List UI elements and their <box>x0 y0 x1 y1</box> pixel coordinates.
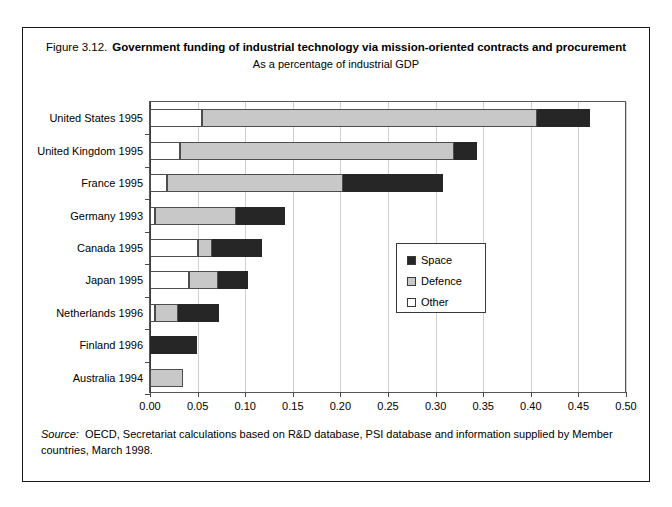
bar-segment-space[interactable] <box>178 304 219 322</box>
legend-label-space: Space <box>421 254 452 266</box>
bar-row[interactable] <box>150 174 627 192</box>
x-axis-tick <box>245 392 246 397</box>
bar-segment-other[interactable] <box>150 142 180 160</box>
x-axis-tick <box>436 392 437 397</box>
y-axis-category-label: Canada 1995 <box>77 242 143 254</box>
bar-segment-defence[interactable] <box>202 109 537 127</box>
source-body: OECD, Secretariat calculations based on … <box>41 428 613 456</box>
x-axis-tick <box>150 392 151 397</box>
x-axis-tick <box>483 392 484 397</box>
source-label: Source: <box>41 428 79 440</box>
bar-segment-space[interactable] <box>236 207 286 225</box>
x-axis-label: 0.25 <box>377 400 398 412</box>
bar-segment-space[interactable] <box>454 142 477 160</box>
x-axis-tick <box>340 392 341 397</box>
bar-segment-space[interactable] <box>343 174 443 192</box>
bar-segment-other[interactable] <box>150 271 189 289</box>
bar-segment-defence[interactable] <box>198 239 212 257</box>
y-axis-category-label: Germany 1993 <box>70 210 143 222</box>
x-axis-tick <box>531 392 532 397</box>
bar-row[interactable] <box>150 304 627 322</box>
chart-plot-area: 0.000.050.100.150.200.250.300.350.400.45… <box>23 28 651 483</box>
x-axis-tick <box>626 392 627 397</box>
legend-item-other: Other <box>407 293 485 311</box>
bar-segment-space[interactable] <box>212 239 262 257</box>
y-axis-category-label: Australia 1994 <box>73 372 143 384</box>
legend-swatch-defence <box>407 277 416 286</box>
bar-row[interactable] <box>150 271 627 289</box>
chart-legend: Space Defence Other <box>396 243 486 313</box>
y-axis-category-label: United States 1995 <box>49 112 143 124</box>
bar-segment-space[interactable] <box>537 109 589 127</box>
bar-segment-defence[interactable] <box>180 142 454 160</box>
legend-label-defence: Defence <box>421 275 462 287</box>
legend-label-other: Other <box>421 296 449 308</box>
y-axis-category-label: Netherlands 1996 <box>56 307 143 319</box>
x-axis-tick <box>293 392 294 397</box>
x-axis-label: 0.45 <box>568 400 589 412</box>
bar-segment-defence[interactable] <box>155 207 236 225</box>
bar-segment-space[interactable] <box>150 336 197 354</box>
x-axis-tick <box>578 392 579 397</box>
y-axis-tick <box>145 394 150 395</box>
y-axis-tick <box>145 264 150 265</box>
x-axis-label: 0.00 <box>139 400 160 412</box>
figure-frame: Figure 3.12.Government funding of indust… <box>22 27 650 482</box>
bar-row[interactable] <box>150 207 627 225</box>
bar-segment-other[interactable] <box>150 174 167 192</box>
bar-segment-other[interactable] <box>150 109 202 127</box>
bar-row[interactable] <box>150 142 627 160</box>
bar-segment-defence[interactable] <box>189 271 218 289</box>
bar-segment-defence[interactable] <box>150 369 183 387</box>
legend-swatch-space <box>407 256 416 265</box>
bar-segment-defence[interactable] <box>167 174 343 192</box>
x-axis-label: 0.35 <box>472 400 493 412</box>
plot-box: 0.000.050.100.150.200.250.300.350.400.45… <box>149 101 626 393</box>
bar-segment-other[interactable] <box>150 239 198 257</box>
y-axis-tick <box>145 232 150 233</box>
y-axis-category-label: Finland 1996 <box>79 339 143 351</box>
y-axis-tick <box>145 167 150 168</box>
x-axis-label: 0.30 <box>425 400 446 412</box>
y-axis-category-label: Japan 1995 <box>86 274 144 286</box>
bar-row[interactable] <box>150 336 627 354</box>
legend-item-space: Space <box>407 251 485 269</box>
y-axis-tick <box>145 329 150 330</box>
bar-row[interactable] <box>150 239 627 257</box>
y-axis-tick <box>145 362 150 363</box>
bar-row[interactable] <box>150 369 627 387</box>
x-axis-label: 0.20 <box>330 400 351 412</box>
x-axis-label: 0.50 <box>615 400 636 412</box>
y-axis-tick <box>145 134 150 135</box>
x-axis-label: 0.05 <box>187 400 208 412</box>
y-axis-category-label: United Kingdom 1995 <box>37 145 143 157</box>
y-axis-tick <box>145 199 150 200</box>
legend-item-defence: Defence <box>407 272 485 290</box>
bar-segment-defence[interactable] <box>155 304 178 322</box>
source-note: Source:OECD, Secretariat calculations ba… <box>41 426 636 458</box>
x-axis-label: 0.15 <box>282 400 303 412</box>
x-axis-label: 0.40 <box>520 400 541 412</box>
bar-segment-space[interactable] <box>218 271 248 289</box>
x-axis-tick <box>388 392 389 397</box>
y-axis-tick <box>145 297 150 298</box>
bar-row[interactable] <box>150 109 627 127</box>
y-axis-category-label: France 1995 <box>81 177 143 189</box>
x-axis-tick <box>198 392 199 397</box>
x-axis-label: 0.10 <box>234 400 255 412</box>
legend-swatch-other <box>407 298 416 307</box>
